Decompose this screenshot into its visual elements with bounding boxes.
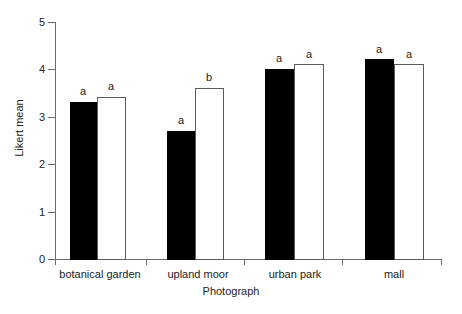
bar-filled-urban-park	[265, 69, 294, 260]
bar-open-urban-park	[294, 64, 324, 260]
x-tick-mark-left-edge	[55, 259, 56, 265]
y-tick-label-4: 4	[33, 64, 45, 75]
bar-open-mall	[394, 64, 424, 260]
x-tick-mark-right-edge	[441, 259, 442, 265]
bar-annotation-filled-urban-park: a	[276, 53, 282, 64]
y-tick-label-0: 0	[33, 254, 45, 265]
bar-annotation-open-urban-park: a	[306, 49, 312, 60]
x-tick-mark-3	[342, 259, 343, 265]
bar-open-upland-moor	[195, 88, 224, 260]
x-category-label-botanical-garden: botanical garden	[59, 268, 140, 280]
y-tick-mark-0	[48, 259, 55, 260]
y-tick-mark-3	[48, 117, 55, 118]
x-axis-title: Photograph	[0, 285, 462, 297]
y-tick-mark-5	[48, 22, 55, 23]
x-category-label-urban-park: urban park	[269, 268, 322, 280]
y-axis-title: Likert mean	[13, 83, 25, 173]
y-tick-label-5: 5	[33, 17, 45, 28]
bar-annotation-open-mall: a	[406, 49, 412, 60]
x-tick-mark-2	[244, 259, 245, 265]
bar-filled-mall	[365, 59, 394, 260]
y-tick-mark-2	[48, 164, 55, 165]
bar-annotation-filled-botanical-garden: a	[80, 86, 86, 97]
x-tick-mark-1	[146, 259, 147, 265]
bar-annotation-open-upland-moor: b	[206, 72, 212, 83]
bar-annotation-filled-mall: a	[376, 44, 382, 55]
bar-filled-botanical-garden	[70, 102, 97, 260]
bar-annotation-open-botanical-garden: a	[108, 81, 114, 92]
y-axis-line	[55, 22, 56, 260]
x-category-label-mall: mall	[384, 268, 404, 280]
bar-open-botanical-garden	[97, 97, 126, 260]
y-tick-mark-1	[48, 212, 55, 213]
bar-chart: 5 4 3 2 1 0 Likert mean a a botanical ga…	[0, 0, 462, 314]
bar-annotation-filled-upland-moor: a	[178, 115, 184, 126]
y-tick-mark-4	[48, 69, 55, 70]
y-tick-label-1: 1	[33, 207, 45, 218]
bar-filled-upland-moor	[167, 131, 195, 260]
y-tick-label-2: 2	[33, 159, 45, 170]
x-category-label-upland-moor: upland moor	[167, 268, 228, 280]
y-tick-label-3: 3	[33, 112, 45, 123]
